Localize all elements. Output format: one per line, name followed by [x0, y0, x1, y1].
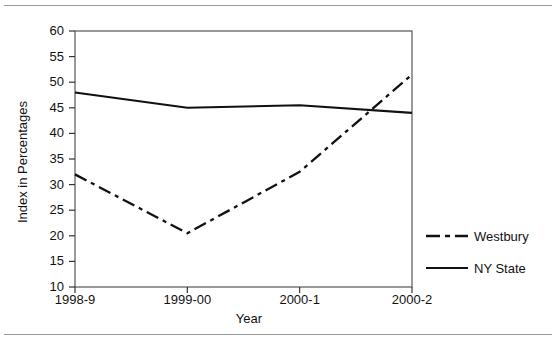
- x-tick-label: 2000-1: [260, 293, 340, 306]
- y-tick-label: 35: [36, 152, 64, 165]
- y-tick-label: 60: [36, 24, 64, 37]
- x-axis-title: Year: [204, 312, 294, 325]
- y-tick-label: 55: [36, 50, 64, 63]
- x-tick-label: 2000-2: [372, 293, 452, 306]
- series-line-ny-state: [75, 92, 412, 112]
- plot-area-frame: [75, 31, 412, 287]
- x-tick-label: 1998-9: [35, 293, 115, 306]
- x-tick-label: 1999-00: [147, 293, 227, 306]
- y-tick-label: 25: [36, 203, 64, 216]
- y-tick-label: 20: [36, 229, 64, 242]
- y-axis-title: Index in Percentages: [16, 62, 29, 262]
- y-tick-label: 50: [36, 75, 64, 88]
- figure: 1015202530354045505560 1998-91999-002000…: [0, 0, 556, 350]
- y-tick-label: 45: [36, 101, 64, 114]
- y-tick-label: 15: [36, 254, 64, 267]
- x-axis-ticks: [75, 287, 412, 293]
- legend-label-westbury: Westbury: [474, 230, 529, 243]
- legend-label-ny-state: NY State: [474, 262, 526, 275]
- y-tick-label: 30: [36, 178, 64, 191]
- y-axis-ticks: [69, 31, 75, 287]
- y-tick-label: 40: [36, 126, 64, 139]
